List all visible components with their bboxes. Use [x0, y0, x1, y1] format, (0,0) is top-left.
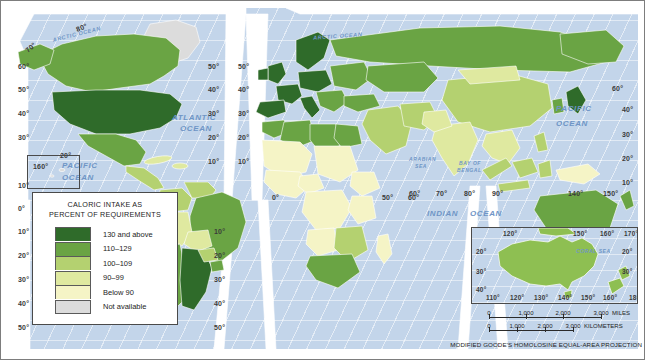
scale-tick-label: 1,000 [509, 323, 524, 329]
legend-swatch [55, 285, 91, 299]
graticule-label-lat-c-s30: 30° [214, 276, 225, 283]
country-angola [306, 228, 338, 256]
scale-tick-label: 0 [487, 310, 490, 316]
graticule-label-lat-c-50b: 50° [238, 63, 249, 70]
scale-unit-label: KILOMETERS [584, 323, 623, 329]
scale-bar-kilometers: 0 1,000 2,000 3,000 KILOMETERS [471, 324, 643, 337]
graticule-label-lat-c-30b: 30° [238, 110, 249, 117]
inset-longitude-label-bottom: 120° [510, 294, 524, 301]
graticule-label-lat-c-50a: 50° [208, 63, 219, 70]
graticule-label-lat-c-s10: 10° [214, 228, 225, 235]
region-balkans [316, 90, 348, 112]
graticule-label-lat-w-60: 60° [18, 63, 29, 70]
legend-label: Below 90 [103, 288, 134, 297]
ocean-label-bay-of-bengal: BAY OF [459, 160, 481, 166]
legend-title-line-1: CALORIC INTAKE AS [39, 200, 171, 210]
legend-title: CALORIC INTAKE AS PERCENT OF REQUIREMENT… [39, 200, 171, 220]
ocean-label-bay-of-bengal-2: BENGAL [457, 167, 482, 173]
inset-latitude-label-left: 30° [476, 268, 486, 275]
graticule-label-lat-e-40: 40° [622, 106, 633, 113]
graticule-label-lon-70: 70° [436, 190, 447, 197]
graticule-label-lon-60b: 60° [409, 190, 420, 197]
legend-row: 110–129 [55, 242, 171, 257]
country-new-zealand-main [620, 190, 634, 210]
graticule-label-lat-w-30: 30° [18, 134, 29, 141]
island-cuba [144, 154, 173, 166]
legend-label: 90–99 [103, 273, 124, 282]
country-uruguay [210, 260, 224, 272]
scale-unit-label: MILES [612, 310, 630, 316]
graticule-label-lat-e-20: 20° [622, 155, 633, 162]
legend-swatch [55, 271, 91, 285]
graticule-label-lat-c-s20: 20° [214, 252, 225, 259]
graticule-label-lat-e-60: 60° [612, 85, 623, 92]
graticule-label-lat-c-40b: 40° [238, 86, 249, 93]
inset-longitude-label-bottom: 130° [534, 294, 548, 301]
legend-swatch [55, 256, 91, 270]
inset-longitude-label-top: 160° [600, 230, 614, 237]
graticule-label-lon-80: 80° [464, 190, 475, 197]
legend-title-line-2: PERCENT OF REQUIREMENTS [39, 210, 171, 220]
projection-note: MODIFIED GOODE'S HOMOLOSINE EQUAL-AREA P… [432, 341, 642, 348]
country-kenya-tanzania [348, 196, 376, 224]
legend-row: Not available [55, 300, 171, 315]
region-central-america [126, 166, 164, 190]
inset-latitude-label-right: 30° [622, 268, 632, 275]
legend-label: 110–129 [103, 244, 132, 253]
island-philippines [534, 132, 548, 152]
scale-tick-label: 0 [487, 323, 490, 329]
graticule-label-lat-c-10a: 10° [208, 158, 219, 165]
legend-swatch [55, 227, 91, 241]
country-south-africa [306, 254, 360, 288]
graticule-label-lon-0: 0° [272, 194, 279, 201]
map-legend: CALORIC INTAKE AS PERCENT OF REQUIREMENT… [32, 192, 178, 325]
scale-tick-label: 2,000 [555, 310, 570, 316]
inset-latitude-label-right: 20° [622, 248, 632, 255]
inset-latitude-label-left: 40° [476, 286, 486, 293]
australia-inset-map: 120°150°160°170°110°120°130°140°150°160°… [471, 227, 638, 304]
region-central-africa [302, 190, 352, 230]
country-italy [300, 96, 320, 118]
inset-longitude-label-bottom: 180° [629, 294, 638, 301]
inset-longitude-label-bottom: 160° [603, 294, 617, 301]
country-united-states [52, 90, 182, 134]
graticule-label-lat-w-40: 40° [18, 110, 29, 117]
graticule-label-lat-c-s40: 40° [214, 300, 225, 307]
legend-swatch [55, 242, 91, 256]
inset-longitude-label-bottom: 140° [558, 294, 572, 301]
inset-longitude-label-bottom: 150° [581, 294, 595, 301]
graticule-label-lat-e-30: 30° [622, 131, 633, 138]
inset-country-new-zealand-south [608, 278, 624, 294]
island-sulawesi [538, 160, 552, 178]
inset-island-new-guinea [538, 228, 576, 236]
graticule-label-lat-w-s10: 10° [18, 228, 29, 235]
graticule-label-lat-w-s30: 30° [18, 276, 29, 283]
country-canada [38, 34, 180, 92]
ocean-label-atlantic-2: OCEAN [180, 124, 212, 133]
world-map-figure: ARCTIC OCEANARCTIC OCEANATLANTICOCEANPAC… [0, 0, 646, 361]
inset-longitude-label-top: 120° [503, 230, 517, 237]
scale-tick-label: 3,000 [593, 310, 608, 316]
graticule-label-lat-w-s50: 50° [18, 324, 29, 331]
island-new-guinea [556, 164, 600, 184]
island-borneo [512, 158, 538, 178]
graticule-label-lat-c-10b: 10° [238, 158, 249, 165]
graticule-label-lat-w-50: 50° [18, 86, 29, 93]
ocean-label-indian-ocean: INDIAN [427, 209, 458, 218]
pacific-inset-box [27, 155, 80, 189]
graticule-label-lat-e-10: 10° [622, 179, 633, 186]
ocean-label-arabian-sea-2: SEA [415, 163, 427, 169]
scale-tick-label: 2,000 [537, 323, 552, 329]
legend-label: 100–109 [103, 259, 132, 268]
ocean-label-arabian-sea: ARABIAN [409, 156, 436, 162]
graticule-label-lat-w-0: 0° [18, 205, 25, 212]
legend-row: Below 90 [55, 285, 171, 300]
region-central-asia [366, 62, 438, 92]
country-germany-poland [298, 70, 332, 92]
island-sumatra [482, 158, 512, 180]
inset-longitude-label-top: 150° [573, 230, 587, 237]
ocean-label-indian-ocean-2: OCEAN [470, 209, 502, 218]
region-southeast-asia [482, 130, 520, 164]
island-hispaniola [172, 163, 188, 169]
ocean-label-pacific-right: PACIFIC [556, 104, 592, 113]
